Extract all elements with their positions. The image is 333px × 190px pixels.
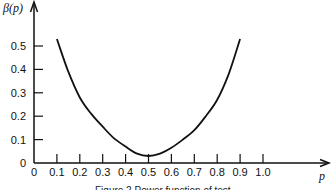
figure-caption: Figure 2 Power function of test [95, 185, 231, 190]
y-tick-label: 0.2 [11, 110, 26, 122]
power-function-chart: 00.10.20.30.40.50.60.70.80.91.0 00.10.20… [0, 0, 333, 190]
y-tick-label: 0.5 [11, 40, 26, 52]
x-tick-label: 0.1 [49, 166, 64, 178]
x-tick-label: 1.0 [255, 166, 270, 178]
y-axis-ticks: 00.10.20.30.40.5 [11, 40, 43, 169]
y-axis-label: β(p) [2, 1, 23, 15]
x-tick-label: 0.8 [210, 166, 225, 178]
y-tick-label: 0.4 [11, 63, 26, 75]
x-tick-label: 0.7 [187, 166, 202, 178]
y-tick-label: 0.1 [11, 134, 26, 146]
x-tick-label: 0.4 [118, 166, 133, 178]
x-tick-label: 0.9 [232, 166, 247, 178]
x-axis-ticks: 00.10.20.30.40.50.60.70.80.91.0 [31, 154, 271, 178]
x-tick-label: 0.3 [95, 166, 110, 178]
y-tick-label: 0 [20, 157, 26, 169]
y-tick-label: 0.3 [11, 87, 26, 99]
power-curve [57, 39, 240, 156]
x-tick-label: 0.5 [141, 166, 156, 178]
x-tick-label: 0.2 [72, 166, 87, 178]
x-axis-label: p [318, 169, 325, 183]
x-tick-label: 0 [31, 166, 37, 178]
x-tick-label: 0.6 [164, 166, 179, 178]
